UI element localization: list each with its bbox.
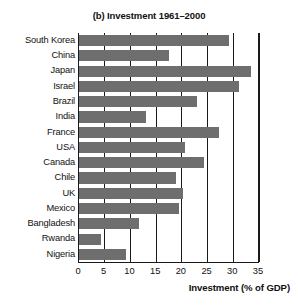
- category-axis-labels: South KoreaChinaJapanIsraelBrazilIndiaFr…: [0, 33, 75, 262]
- category-label: Brazil: [1, 97, 75, 106]
- bar: [79, 127, 219, 138]
- x-axis-line: [78, 262, 259, 263]
- bar-row: [79, 64, 258, 79]
- category-label: Rwanda: [1, 234, 75, 243]
- bar: [79, 249, 126, 260]
- bar: [79, 234, 101, 245]
- bar-row: [79, 247, 258, 262]
- investment-bar-chart-figure: (b) Investment 1961–2000 South KoreaChin…: [0, 0, 298, 305]
- bar: [79, 35, 229, 46]
- bar: [79, 96, 197, 107]
- bar: [79, 142, 185, 153]
- x-tick-label: 20: [176, 266, 186, 276]
- category-label: Chile: [1, 173, 75, 182]
- bar-row: [79, 94, 258, 109]
- category-label: Bangladesh: [1, 219, 75, 228]
- x-tick-label: 5: [101, 266, 106, 276]
- bar-row: [79, 155, 258, 170]
- bar-row: [79, 33, 258, 48]
- category-label: UK: [1, 189, 75, 198]
- category-label: Mexico: [1, 204, 75, 213]
- bar: [79, 81, 239, 92]
- bar-row: [79, 170, 258, 185]
- bar: [79, 203, 179, 214]
- category-label: Nigeria: [1, 250, 75, 259]
- bar-row: [79, 216, 258, 231]
- x-tick-label: 25: [201, 266, 211, 276]
- bar: [79, 157, 204, 168]
- bar-row: [79, 140, 258, 155]
- category-label: USA: [1, 143, 75, 152]
- bar-row: [79, 201, 258, 216]
- bar: [79, 172, 176, 183]
- x-axis-title: Investment (% of GDP): [0, 282, 290, 293]
- plot-area: [78, 33, 258, 262]
- chart-title: (b) Investment 1961–2000: [0, 10, 298, 21]
- category-label: Canada: [1, 158, 75, 167]
- bar-row: [79, 109, 258, 124]
- bar-row: [79, 125, 258, 140]
- x-tick-label: 30: [227, 266, 237, 276]
- bar: [79, 188, 183, 199]
- bar: [79, 218, 139, 229]
- bar: [79, 111, 146, 122]
- bar-row: [79, 48, 258, 63]
- x-tick-label: 0: [75, 266, 80, 276]
- bar-row: [79, 186, 258, 201]
- category-label: Japan: [1, 66, 75, 75]
- bar: [79, 66, 251, 77]
- bar-row: [79, 79, 258, 94]
- bar: [79, 50, 169, 61]
- category-label: South Korea: [1, 36, 75, 45]
- x-tick-label: 10: [124, 266, 134, 276]
- bar-row: [79, 231, 258, 246]
- category-label: Israel: [1, 82, 75, 91]
- category-label: China: [1, 51, 75, 60]
- x-tick-label: 15: [150, 266, 160, 276]
- x-tick-label: 35: [253, 266, 263, 276]
- category-label: India: [1, 112, 75, 121]
- gridline-35: [258, 33, 259, 262]
- category-label: France: [1, 128, 75, 137]
